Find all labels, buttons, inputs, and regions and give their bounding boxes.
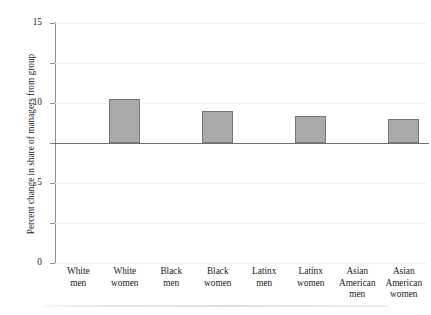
y-gridline bbox=[55, 63, 427, 64]
y-axis-tick: 10 bbox=[50, 63, 55, 64]
y-axis-tick-label: 10 bbox=[12, 98, 42, 107]
y-gridline bbox=[55, 23, 427, 24]
y-axis-tick-label: 5 bbox=[12, 178, 42, 187]
bar[interactable] bbox=[202, 111, 233, 143]
y-axis-tick-label: 15 bbox=[12, 18, 42, 27]
bar[interactable] bbox=[109, 99, 140, 143]
y-axis-tick: 15 bbox=[50, 23, 55, 24]
plot-area: 151050−5−10−15 bbox=[55, 23, 427, 263]
y-axis-tick: −5 bbox=[50, 183, 55, 184]
bar-chart-figure: Percent change in share of managers from… bbox=[0, 0, 431, 315]
bar[interactable] bbox=[388, 119, 419, 143]
page-top-text-sliver bbox=[150, 0, 360, 7]
y-axis-tick: −15 bbox=[50, 263, 55, 264]
y-axis-tick: 5 bbox=[50, 103, 55, 104]
y-axis-tick-label: 0 bbox=[12, 258, 42, 267]
bar[interactable] bbox=[295, 116, 326, 143]
y-axis-tick: −10 bbox=[50, 223, 55, 224]
y-gridline bbox=[55, 183, 427, 184]
zero-baseline bbox=[53, 143, 429, 144]
y-gridline bbox=[55, 263, 427, 264]
y-gridline bbox=[55, 223, 427, 224]
page-separator-rule bbox=[44, 305, 388, 307]
y-axis-title: Percent change in share of managers from… bbox=[26, 21, 36, 267]
